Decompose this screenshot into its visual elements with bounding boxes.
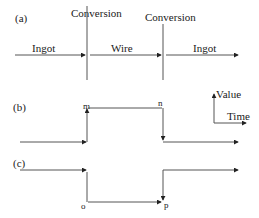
panel-a-label: (a) [15,12,28,25]
axis-legend: Value Time [214,88,250,123]
conversion-label-right: Conversion [145,11,196,23]
segment-ingot-1: Ingot [32,42,55,54]
point-m-label: m [83,101,90,111]
panel-a: (a) Conversion Conversion Ingot Wire Ing… [15,6,238,80]
panel-b: (b) m n [13,98,238,142]
panel-c-label: (c) [13,157,26,170]
segment-wire: Wire [111,42,133,54]
point-o-label: o [81,201,86,211]
conversion-diagram: (a) Conversion Conversion Ingot Wire Ing… [0,0,259,218]
legend-value-label: Value [216,88,241,100]
legend-time-label: Time [227,110,250,122]
panel-b-label: (b) [13,101,26,114]
point-p-label: p [164,200,169,210]
conversion-label-left: Conversion [71,7,122,19]
panel-c: (c) o p [13,157,238,211]
point-n-label: n [158,98,163,108]
segment-ingot-2: Ingot [193,42,216,54]
